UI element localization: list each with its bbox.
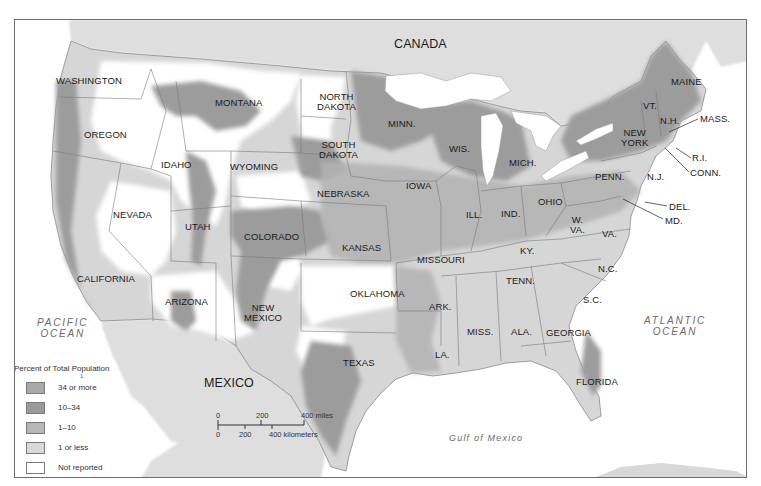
ocean-label-line: OCEAN: [644, 326, 706, 337]
state-label-nebraska: NEBRASKA: [317, 189, 370, 199]
state-label-south-carolina: S.C.: [583, 295, 602, 305]
state-label-line: DAKOTA: [317, 102, 356, 112]
state-label-north-carolina: N.C.: [598, 264, 617, 274]
state-label-kentucky: KY.: [520, 246, 534, 256]
legend-footnote-mark: 1: [80, 373, 83, 379]
state-label-oregon: OREGON: [84, 130, 127, 140]
state-label-georgia: GEORGIA: [546, 328, 591, 338]
legend-swatch: [26, 382, 45, 394]
country-label-mexico: MEXICO: [204, 378, 254, 388]
state-label-michigan: MICH.: [509, 158, 536, 168]
state-label-texas: TEXAS: [343, 358, 375, 368]
scale-km-400: 400 kilometers: [269, 430, 318, 439]
state-label-vermont: VT.: [643, 101, 657, 111]
legend-label: Not reported: [58, 463, 102, 472]
state-label-arizona: ARIZONA: [165, 297, 208, 307]
state-label-connecticut: CONN.: [690, 168, 721, 178]
state-label-iowa: IOWA: [406, 181, 431, 191]
state-label-new-york: NEW YORK: [621, 128, 648, 148]
state-label-nevada: NEVADA: [113, 210, 152, 220]
map-labels: CANADA MEXICO PACIFIC OCEAN ATLANTIC OCE…: [14, 19, 747, 478]
state-label-mississippi: MISS.: [467, 327, 493, 337]
state-label-louisiana: LA.: [435, 350, 450, 360]
state-label-maryland: MD.: [665, 216, 683, 226]
state-label-pennsylvania: PENN.: [595, 172, 625, 182]
map-frame: CANADA MEXICO PACIFIC OCEAN ATLANTIC OCE…: [14, 19, 747, 478]
state-label-wisconsin: WIS.: [449, 144, 470, 154]
state-label-montana: MONTANA: [215, 98, 263, 108]
state-label-north-dakota: NORTH DAKOTA: [317, 92, 356, 112]
ocean-label-line: OCEAN: [37, 328, 88, 339]
ocean-label-pacific: PACIFIC OCEAN: [37, 317, 88, 339]
state-label-florida: FLORIDA: [576, 377, 618, 387]
legend-label: 10–34: [58, 403, 80, 412]
state-label-new-jersey: N.J.: [647, 172, 664, 182]
ocean-label-line: ATLANTIC: [644, 315, 706, 326]
scale-km-200: 200: [239, 430, 252, 439]
country-label-canada: CANADA: [394, 39, 447, 49]
state-label-washington: WASHINGTON: [56, 76, 122, 86]
legend-label: 1 or less: [58, 443, 88, 452]
gulf-label: Gulf of Mexico: [449, 433, 523, 443]
state-label-ohio: OHIO: [538, 197, 563, 207]
ocean-label-atlantic: ATLANTIC OCEAN: [644, 315, 706, 337]
legend-title: Percent of Total Population: [14, 364, 109, 373]
state-label-idaho: IDAHO: [161, 160, 192, 170]
state-label-alabama: ALA.: [511, 327, 532, 337]
state-label-california: CALIFORNIA: [77, 274, 135, 284]
state-label-minnesota: MINN.: [388, 119, 415, 129]
state-label-south-dakota: SOUTH DAKOTA: [319, 140, 358, 160]
legend-label: 1–10: [58, 423, 76, 432]
ocean-label-line: PACIFIC: [37, 317, 88, 328]
state-label-massachusetts: MASS.: [700, 114, 730, 124]
state-label-illinois: ILL.: [466, 210, 482, 220]
state-label-wyoming: WYOMING: [230, 162, 278, 172]
state-label-rhode-island: R.I.: [692, 153, 707, 163]
scale-km-0: 0: [216, 430, 220, 439]
state-label-line: DAKOTA: [319, 150, 358, 160]
state-label-oklahoma: OKLAHOMA: [350, 289, 405, 299]
state-label-kansas: KANSAS: [342, 243, 381, 253]
scale-bar: 0 200 400 miles 0 200 400 kilometers: [215, 411, 365, 451]
state-label-line: YORK: [621, 138, 648, 148]
state-label-new-mexico: NEW MEXICO: [244, 303, 282, 323]
state-label-new-hampshire: N.H.: [660, 116, 679, 126]
state-label-line: VA.: [570, 225, 585, 235]
legend-label: 34 or more: [58, 383, 97, 392]
legend-swatch: [26, 442, 45, 454]
state-label-maine: MAINE: [671, 77, 702, 87]
legend-swatch: [26, 422, 45, 434]
state-label-indiana: IND.: [501, 209, 520, 219]
state-label-tennessee: TENN.: [506, 276, 535, 286]
legend-swatch: [26, 402, 45, 414]
state-label-colorado: COLORADO: [244, 232, 299, 242]
state-label-west-virginia: W. VA.: [570, 215, 585, 235]
state-label-missouri: MISSOURI: [417, 255, 465, 265]
state-label-line: MEXICO: [244, 313, 282, 323]
legend-swatch: [26, 462, 45, 474]
state-label-arkansas: ARK.: [429, 302, 452, 312]
state-label-utah: UTAH: [185, 222, 211, 232]
state-label-delaware: DEL.: [669, 202, 691, 212]
state-label-virginia: VA.: [602, 229, 617, 239]
